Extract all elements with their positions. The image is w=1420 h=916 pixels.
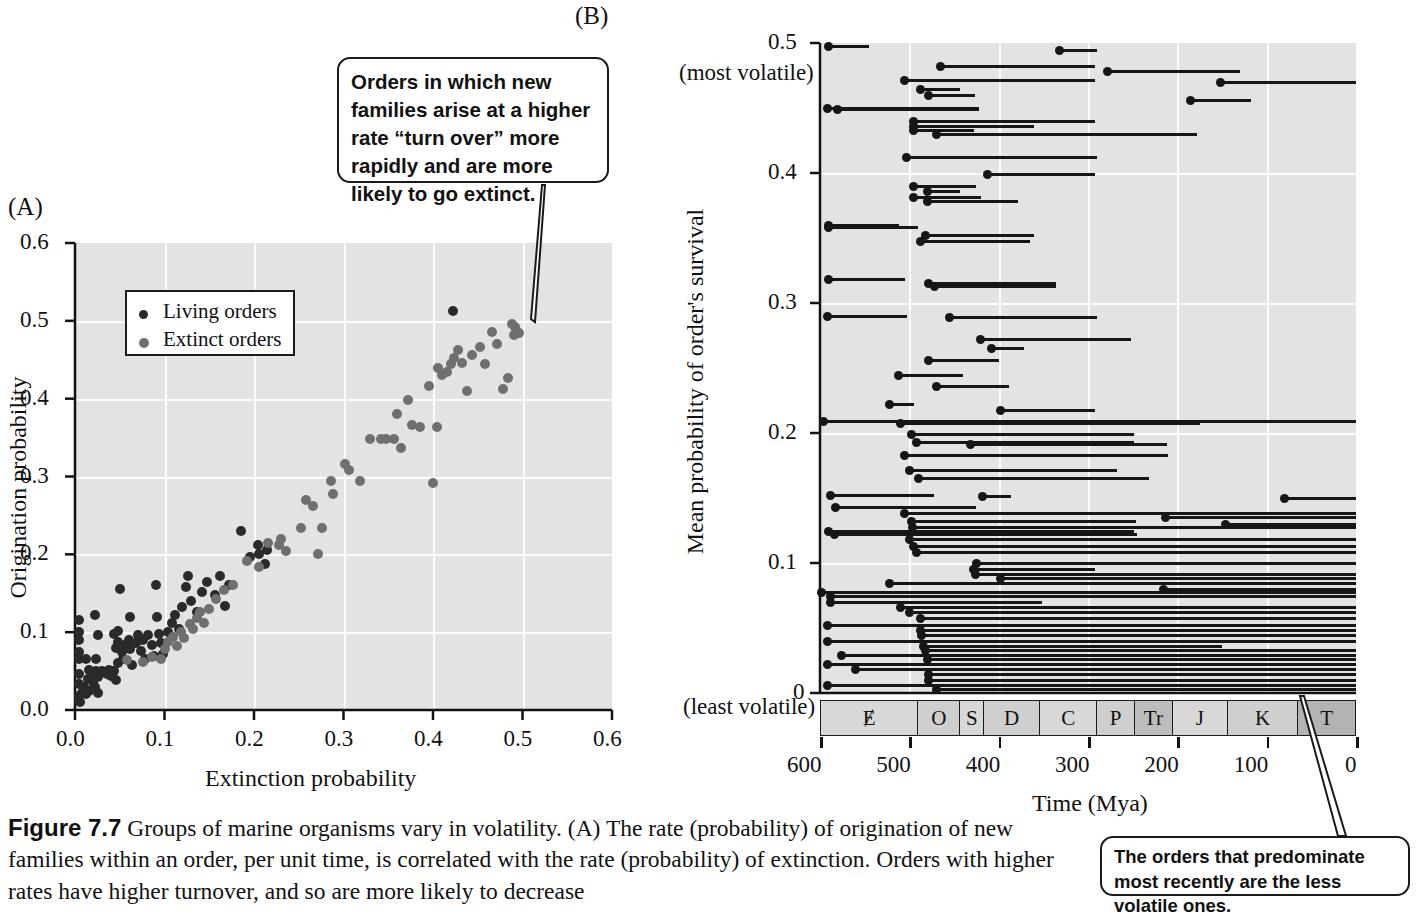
- order-range-line: [900, 606, 1356, 609]
- geologic-period-bar: ɆOSDCPTrJKT: [820, 700, 1356, 736]
- order-origin-dot: [896, 419, 905, 428]
- panel-a-ytick: 0.1: [20, 618, 49, 644]
- figure-caption-text: Groups of marine organisms vary in volat…: [8, 815, 1054, 904]
- order-origin-dot: [923, 187, 932, 196]
- order-origin-dot: [909, 182, 918, 191]
- order-range-line: [899, 374, 963, 377]
- order-origin-dot: [914, 474, 923, 483]
- order-origin-dot: [823, 681, 832, 690]
- order-range-line: [831, 601, 1042, 604]
- order-range-line: [909, 538, 1356, 541]
- order-range-line: [831, 494, 935, 497]
- order-origin-dot: [851, 665, 860, 674]
- order-range-line: [936, 385, 1009, 388]
- panel-b-xtick: 200: [1144, 752, 1179, 778]
- panel-b-xtick: 400: [966, 752, 1001, 778]
- panel-a-xtick: 0.1: [146, 726, 175, 752]
- order-origin-dot: [909, 126, 918, 135]
- order-range-line: [912, 526, 1356, 529]
- order-origin-dot: [833, 105, 842, 114]
- panel-b-callout: The orders that predominate most recentl…: [1100, 836, 1410, 896]
- order-range-line: [831, 595, 1356, 598]
- period-devonian: D: [984, 701, 1040, 735]
- panel-a-ytick: 0.5: [20, 307, 49, 333]
- order-range-line: [834, 533, 1137, 536]
- order-origin-dot: [900, 509, 909, 518]
- panel-b-ytick: 0.3: [768, 289, 797, 315]
- order-range-line: [822, 591, 1356, 594]
- panel-b-xtick: 600: [787, 752, 822, 778]
- order-range-line: [970, 443, 1167, 446]
- order-range-line: [974, 568, 1095, 571]
- panel-b-xtick-mark: [820, 737, 823, 748]
- order-range-line: [911, 433, 1134, 436]
- order-range-line: [1000, 577, 1356, 580]
- order-range-line: [950, 316, 1097, 319]
- order-range-line: [829, 45, 869, 48]
- order-origin-dot: [823, 312, 832, 321]
- period-jurassic: J: [1173, 701, 1228, 735]
- panel-a-xtick: 0.4: [414, 726, 443, 752]
- order-range-line: [920, 629, 1356, 632]
- order-origin-dot: [1103, 67, 1112, 76]
- panel-b-ytick: 0: [793, 679, 805, 705]
- panel-b-ytick: 0.4: [768, 159, 797, 185]
- panel-a-x-axis-title: Extinction probability: [205, 765, 416, 792]
- order-origin-dot: [966, 440, 975, 449]
- order-origin-dot: [817, 588, 826, 597]
- order-origin-dot: [971, 570, 980, 579]
- order-origin-dot: [976, 335, 985, 344]
- order-range-line: [1108, 70, 1240, 73]
- order-range-line: [911, 520, 1136, 523]
- order-origin-dot: [1280, 494, 1289, 503]
- panel-b-xtick-mark: [909, 737, 912, 748]
- order-range-line: [929, 679, 1356, 682]
- order-range-line: [1220, 81, 1356, 84]
- panel-a-xtick: 0.0: [56, 726, 85, 752]
- order-origin-dot: [916, 237, 925, 246]
- order-range-line: [827, 640, 1356, 643]
- order-range-line: [1059, 49, 1097, 52]
- panel-b-xtick: 300: [1055, 752, 1090, 778]
- period-ordovician: O: [918, 701, 960, 735]
- period-silurian: S: [960, 701, 984, 735]
- order-range-line: [909, 611, 1356, 614]
- order-origin-dot: [905, 608, 914, 617]
- order-origin-dot: [936, 62, 945, 71]
- order-range-line: [829, 226, 918, 229]
- panel-a-ytick: 0.6: [20, 229, 49, 255]
- period-carboniferous: C: [1040, 701, 1097, 735]
- figure-number: Figure 7.7: [8, 814, 121, 841]
- panel-b-x-axis-title: Time (Mya): [1032, 790, 1148, 817]
- order-origin-dot: [978, 492, 987, 501]
- panel-b-xtick: 0: [1345, 752, 1357, 778]
- order-origin-dot: [823, 621, 832, 630]
- period-permian: P: [1097, 701, 1135, 735]
- order-origin-dot: [945, 313, 954, 322]
- order-origin-dot: [996, 406, 1005, 415]
- order-origin-dot: [987, 344, 996, 353]
- panel-a-xtick: 0.6: [593, 726, 622, 752]
- order-range-line: [1164, 588, 1356, 591]
- period-cretaceous: K: [1228, 701, 1298, 735]
- order-range-line: [927, 200, 1018, 203]
- order-origin-dot: [885, 579, 894, 588]
- order-range-line: [927, 190, 960, 193]
- order-origin-dot: [824, 275, 833, 284]
- order-origin-dot: [826, 491, 835, 500]
- order-range-line: [1166, 516, 1356, 519]
- order-range-line: [981, 338, 1131, 341]
- order-origin-dot: [983, 170, 992, 179]
- order-range-line: [1285, 497, 1356, 500]
- order-range-line: [907, 156, 1097, 159]
- order-range-line: [922, 634, 1356, 637]
- order-range-line: [835, 506, 976, 509]
- order-origin-dot: [923, 197, 932, 206]
- order-range-line: [890, 582, 1356, 585]
- panel-a-ytick: 0.0: [20, 696, 49, 722]
- order-origin-dot: [916, 85, 925, 94]
- order-range-line: [1000, 409, 1095, 412]
- order-range-line: [900, 422, 1199, 425]
- order-range-line: [1191, 99, 1251, 102]
- panel-b-xtick: 100: [1234, 752, 1269, 778]
